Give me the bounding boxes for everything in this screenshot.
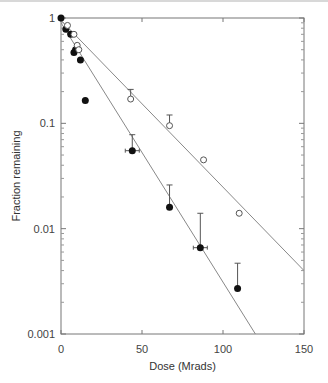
filled-data-point bbox=[129, 147, 136, 154]
x-tick-label: 50 bbox=[136, 343, 148, 355]
y-tick-label: 0.001 bbox=[27, 328, 55, 340]
x-tick-label: 100 bbox=[214, 343, 232, 355]
x-tick-label: 0 bbox=[58, 343, 64, 355]
open-data-point bbox=[167, 123, 173, 129]
open-data-point bbox=[128, 96, 134, 102]
y-tick-label: 1 bbox=[49, 12, 55, 24]
y-axis-label: Fraction remaining bbox=[10, 130, 22, 221]
plot-frame bbox=[61, 18, 304, 334]
chart: 0501001500.0010.010.11Dose (Mrads)Fracti… bbox=[0, 0, 328, 383]
filled-data-point bbox=[166, 204, 173, 211]
open-data-point bbox=[201, 157, 207, 163]
y-tick-label: 0.1 bbox=[40, 117, 55, 129]
x-axis-label: Dose (Mrads) bbox=[149, 360, 216, 372]
filled-data-point bbox=[82, 97, 89, 104]
open-data-point bbox=[76, 47, 82, 53]
x-tick-label: 150 bbox=[295, 343, 313, 355]
filled-data-point bbox=[234, 285, 241, 292]
open-data-point bbox=[64, 22, 70, 28]
filled-data-point bbox=[58, 15, 65, 22]
filled-data-point bbox=[77, 56, 84, 63]
open-fit-line bbox=[61, 20, 304, 270]
filled-fit-line bbox=[61, 23, 255, 334]
filled-data-point bbox=[197, 244, 204, 251]
open-data-point bbox=[71, 31, 77, 37]
y-tick-label: 0.01 bbox=[34, 223, 55, 235]
open-data-point bbox=[236, 210, 242, 216]
